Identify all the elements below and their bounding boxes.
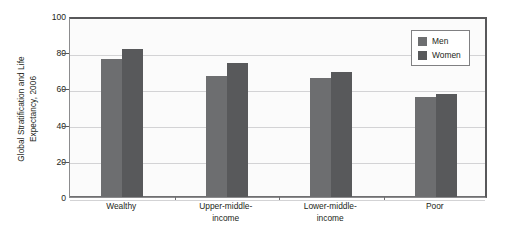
x-category-label-line: Upper-middle- bbox=[174, 201, 279, 213]
bar-men-2[interactable] bbox=[310, 78, 331, 197]
x-category-label: Lower-middle-income bbox=[278, 201, 383, 224]
bar-women-2[interactable] bbox=[331, 72, 352, 197]
y-axis-tick-labels: 020406080100 bbox=[40, 0, 66, 244]
x-category-label-line: Wealthy bbox=[69, 201, 174, 213]
x-category-label-line: Lower-middle- bbox=[278, 201, 383, 213]
y-axis-title-line-1: Global Stratification and Life bbox=[16, 56, 28, 161]
y-tick-label: 100 bbox=[40, 12, 66, 22]
bar-group bbox=[175, 19, 280, 197]
y-tick-mark bbox=[62, 53, 69, 54]
x-axis-category-labels: WealthyUpper-middle-incomeLower-middle-i… bbox=[69, 201, 487, 241]
y-tick-label: 0 bbox=[40, 193, 66, 203]
x-category-label: Poor bbox=[383, 201, 488, 213]
y-tick-mark bbox=[62, 126, 69, 127]
bar-men-3[interactable] bbox=[415, 97, 436, 197]
legend-swatch-women-icon bbox=[418, 51, 427, 60]
x-category-label-line: income bbox=[174, 213, 279, 225]
bar-group bbox=[279, 19, 384, 197]
bar-women-3[interactable] bbox=[436, 94, 457, 197]
y-axis-title-line-2: Expectancy, 2006 bbox=[27, 56, 39, 161]
x-category-label: Upper-middle-income bbox=[174, 201, 279, 224]
bar-women-1[interactable] bbox=[227, 63, 248, 197]
legend-item-women[interactable]: Women bbox=[418, 50, 461, 60]
chart-figure: Global Stratification and Life Expectanc… bbox=[0, 0, 506, 244]
bar-pair bbox=[310, 19, 352, 197]
bar-women-0[interactable] bbox=[122, 49, 143, 197]
bar-men-0[interactable] bbox=[101, 59, 122, 197]
legend-label-men: Men bbox=[432, 36, 448, 46]
x-category-label-line: Poor bbox=[383, 201, 488, 213]
legend-label-women: Women bbox=[432, 50, 461, 60]
chart-legend: Men Women bbox=[411, 30, 470, 66]
x-category-label: Wealthy bbox=[69, 201, 174, 213]
y-tick-mark bbox=[62, 162, 69, 163]
legend-swatch-men-icon bbox=[418, 37, 427, 46]
bar-men-1[interactable] bbox=[206, 76, 227, 197]
bar-pair bbox=[101, 19, 143, 197]
y-tick-mark bbox=[62, 89, 69, 90]
legend-item-men[interactable]: Men bbox=[418, 36, 461, 46]
bar-pair bbox=[206, 19, 248, 197]
x-category-label-line: income bbox=[278, 213, 383, 225]
y-axis-title-text: Global Stratification and Life Expectanc… bbox=[16, 56, 39, 161]
bar-group bbox=[70, 19, 175, 197]
y-axis-title: Global Stratification and Life Expectanc… bbox=[10, 18, 44, 200]
